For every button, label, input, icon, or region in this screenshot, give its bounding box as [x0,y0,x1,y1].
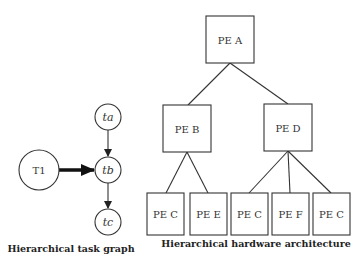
task-graph: T1 ta tb tc Hierarchical task graph [7,104,134,254]
pe-node-c3: PE C [313,193,350,235]
pe-node-label: PE C [237,209,262,220]
pe-node-e: PE E [190,193,227,235]
pe-node-d: PE D [264,104,312,151]
diagram-canvas: T1 ta tb tc Hierarchical task graph PE A [0,0,364,262]
edge-a-d [230,63,288,104]
task-node-label: ta [103,111,114,124]
pe-node-b: PE B [163,105,211,152]
pe-node-label: PE F [278,209,302,220]
pe-node-label: PE C [319,209,344,220]
pe-node-label: PE A [218,35,243,46]
pe-node-label: PE E [196,209,221,220]
pe-node-a: PE A [206,16,254,63]
pe-node-label: PE B [175,124,200,135]
task-node-label: tb [102,164,113,177]
task-node-tb: tb [95,157,121,183]
task-node-t1: T1 [19,150,59,190]
pe-node-label: PE D [275,123,300,134]
pe-node-label: PE C [153,209,178,220]
task-node-label: T1 [32,165,45,176]
edge-a-b [188,63,230,105]
task-graph-caption: Hierarchical task graph [7,243,134,254]
task-node-label: tc [103,216,114,229]
edge-b-e [187,152,208,193]
edge-b-c1 [166,152,187,193]
task-node-tc: tc [95,209,121,235]
edge-d-f [288,151,290,193]
task-node-ta: ta [95,104,121,130]
hardware-tree: PE A PE B PE D PE C PE E PE C PE F [147,16,351,249]
edge-d-c2 [249,151,288,193]
pe-node-f: PE F [272,193,309,235]
hardware-caption: Hierarchical hardware architecture [161,238,350,249]
edge-d-c3 [288,151,331,193]
pe-node-c2: PE C [231,193,268,235]
pe-node-c1: PE C [147,193,184,235]
